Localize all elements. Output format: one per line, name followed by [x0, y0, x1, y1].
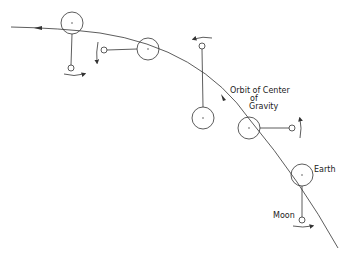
position-1: [61, 12, 84, 76]
moon-circle: [101, 47, 107, 53]
earth-label: Earth: [314, 165, 335, 174]
orbit-label-line1: Orbit of Center: [230, 86, 290, 95]
position-4: [238, 117, 301, 139]
orbit-arrow-icon: [34, 26, 42, 30]
earth-moon-orbit-diagram: Orbit of Center of Gravity Earth Moon: [0, 0, 350, 258]
moon-circle: [199, 43, 205, 49]
position-2: [97, 38, 159, 62]
moon-circle: [299, 217, 305, 223]
moon-circle: [289, 125, 295, 131]
moon-motion-arrow-icon: [97, 42, 98, 62]
moon-label: Moon: [273, 211, 295, 220]
orbit-arrow-icon: [221, 94, 226, 101]
orbit-label-line3: Gravity: [249, 102, 278, 111]
moon-motion-arrow-icon: [293, 226, 312, 227]
moon-motion-arrow-icon: [194, 37, 212, 39]
position-3: [192, 37, 214, 129]
moon-circle: [68, 65, 74, 71]
moon-motion-arrow-icon: [64, 74, 84, 76]
moon-motion-arrow-icon: [300, 119, 301, 138]
